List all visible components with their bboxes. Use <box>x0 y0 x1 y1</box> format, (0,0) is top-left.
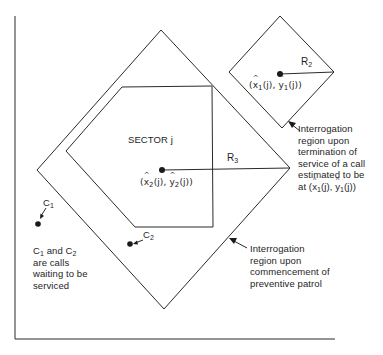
c2-label: C2 <box>143 229 154 241</box>
commencement-note-line4: preventive patrol <box>250 278 330 290</box>
p1-y-hat: y <box>278 80 283 92</box>
radius-r2-line <box>280 72 334 74</box>
calls-note-line1: C1 and C2 <box>33 245 88 257</box>
calls-c2-sub: 2 <box>73 250 77 257</box>
c2-letter: C <box>143 229 150 240</box>
p2-x-hat: x <box>144 177 149 189</box>
p2-mid: (j), <box>154 177 170 187</box>
c1-label: C1 <box>43 197 54 209</box>
point2-coordinate-label: (x2(j), y2(j)) <box>140 177 193 189</box>
sector-j-polygon <box>66 86 213 227</box>
p2-y-hat: y <box>169 177 174 189</box>
calls-note-line2: are calls <box>33 257 88 269</box>
point1-coordinate-label: (x1(j), y1(j)) <box>249 80 302 92</box>
calls-c1: C <box>33 245 40 256</box>
tn-mid: (j), <box>321 181 335 192</box>
c1-letter: C <box>43 197 50 208</box>
commencement-note-line1: Interrogation <box>250 243 330 255</box>
tn-prefix: at ( <box>298 181 312 192</box>
tn-y-hat: y <box>335 181 340 193</box>
calls-note-line4: serviced <box>33 280 88 292</box>
center-point-2 <box>159 167 165 173</box>
commencement-note-line3: commencement of <box>250 266 330 278</box>
termination-note-line4: service of a call <box>298 158 365 170</box>
c2-arrowhead-icon <box>133 241 138 245</box>
termination-note-line3: termination of <box>298 146 365 158</box>
p2-close: (j)) <box>179 177 192 187</box>
commencement-note-line2: region upon <box>250 255 330 267</box>
calls-note: C1 and C2 are calls waiting to be servic… <box>33 245 88 291</box>
termination-note-line2: region upon <box>298 135 365 147</box>
commencement-pointer-line <box>234 241 247 248</box>
r3-label: R3 <box>227 152 238 164</box>
calls-and-c2: and C <box>44 245 73 256</box>
commencement-note: Interrogation region upon commencement o… <box>250 243 330 289</box>
termination-note-line1: Interrogation <box>298 123 365 135</box>
tn-x-hat: x <box>312 181 317 193</box>
commencement-arrowhead-icon <box>229 238 237 244</box>
r2-subscript: 2 <box>308 61 312 68</box>
call-c2-point <box>127 241 133 247</box>
r3-subscript: 3 <box>234 157 238 164</box>
p1-close: (j)) <box>288 80 301 90</box>
call-c1-point <box>35 221 41 227</box>
termination-note-line5: estimated to be <box>298 169 365 181</box>
sector-label: SECTOR j <box>128 134 173 146</box>
c2-subscript: 2 <box>150 234 154 241</box>
termination-note-line6: at (x1(j), y1(j)) <box>298 181 365 193</box>
p1-mid: (j), <box>263 80 279 90</box>
termination-note: Interrogation region upon termination of… <box>298 123 365 192</box>
p1-x-hat: x <box>253 80 258 92</box>
calls-note-line3: waiting to be <box>33 268 88 280</box>
r2-label: R2 <box>301 56 312 68</box>
radius-r3-line <box>162 168 290 170</box>
tn-close: (j)) <box>344 181 356 192</box>
c1-subscript: 1 <box>50 202 54 209</box>
